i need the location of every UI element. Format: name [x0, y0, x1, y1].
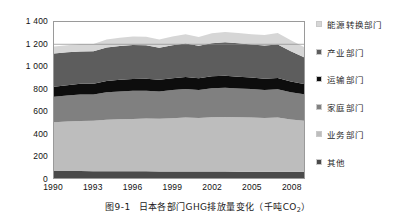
y-axis: 02004006008001 0001 2001 400: [0, 0, 52, 180]
y-axis-tick-label: 400: [33, 129, 48, 139]
y-axis-tick-label: 1 400: [26, 16, 48, 26]
legend-swatch-icon: [316, 49, 322, 55]
legend-item-label: 业务部门: [327, 128, 364, 140]
y-axis-tick-label: 200: [33, 151, 48, 161]
x-axis-tick-label: 2002: [202, 182, 222, 192]
y-axis-tick-label: 1 200: [26, 39, 48, 49]
legend-item-label: 其他: [327, 156, 346, 168]
area-series-0: [54, 171, 304, 178]
area-series-1: [54, 117, 304, 172]
legend-swatch-icon: [316, 159, 322, 165]
legend-item-label: 能源转换部门: [327, 18, 383, 30]
x-axis-tick-label: 1993: [83, 182, 103, 192]
legend-item[interactable]: 家庭部门: [316, 101, 364, 113]
legend-item[interactable]: 其他: [316, 156, 346, 168]
legend-swatch-icon: [316, 76, 322, 82]
legend-item[interactable]: 运输部门: [316, 73, 364, 85]
stacked-area-chart: [54, 22, 304, 178]
x-axis-tick-label: 1999: [163, 182, 183, 192]
legend-item[interactable]: 能源转换部门: [316, 18, 383, 30]
plot-area: [53, 21, 305, 179]
chart-legend: 能源转换部门产业部门运输部门家庭部门业务部门其他: [316, 14, 416, 179]
x-axis: 1990199319961999200220052008: [53, 182, 305, 196]
legend-item[interactable]: 产业部门: [316, 46, 364, 58]
caption-tail: ）: [301, 202, 310, 212]
y-axis-tick-label: 600: [33, 106, 48, 116]
legend-swatch-icon: [316, 131, 322, 137]
x-axis-tick-label: 2005: [242, 182, 262, 192]
x-axis-tick-label: 2008: [282, 182, 302, 192]
legend-swatch-icon: [316, 21, 322, 27]
x-axis-tick-label: 1990: [43, 182, 63, 192]
legend-item-label: 产业部门: [327, 46, 364, 58]
caption-subscript: 2: [297, 206, 302, 214]
legend-swatch-icon: [316, 104, 322, 110]
x-axis-tick-label: 1996: [123, 182, 143, 192]
caption-text: 日本各部门GHG排放量变化（千吨CO: [139, 202, 297, 212]
y-axis-tick-label: 800: [33, 84, 48, 94]
figure-container: 02004006008001 0001 2001 400 19901993199…: [0, 0, 416, 223]
legend-item[interactable]: 业务部门: [316, 128, 364, 140]
caption-number: 图9-1: [105, 202, 130, 212]
y-axis-tick-label: 1 000: [26, 61, 48, 71]
legend-item-label: 运输部门: [327, 73, 364, 85]
legend-item-label: 家庭部门: [327, 101, 364, 113]
figure-caption: 图9-1日本各部门GHG排放量变化（千吨CO2）: [0, 200, 416, 213]
